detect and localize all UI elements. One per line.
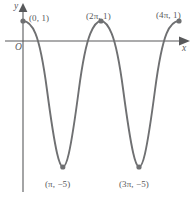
cosine-graph-figure: y x O (0, 1) (2π, 1) (4π, 1) (π, −5) (3π… (0, 0, 193, 198)
point-label-2pi-max: (2π, 1) (86, 12, 111, 21)
cosine-curve (23, 21, 179, 167)
point-label-4pi-max: (4π, 1) (156, 11, 181, 20)
data-point-min-3pi (136, 164, 141, 169)
y-axis-arrow-icon (19, 3, 28, 12)
data-point-max-0 (20, 18, 25, 23)
y-axis-label: y (14, 2, 18, 12)
plot-area (0, 0, 193, 198)
point-label-3pi-min: (3π, −5) (119, 180, 149, 189)
point-label-pi-min: (π, −5) (45, 180, 70, 189)
y-axis (19, 3, 28, 192)
point-label-origin-max: (0, 1) (29, 14, 49, 23)
origin-label: O (15, 43, 22, 53)
x-axis-label: x (182, 44, 186, 54)
data-point-min-pi (60, 164, 65, 169)
